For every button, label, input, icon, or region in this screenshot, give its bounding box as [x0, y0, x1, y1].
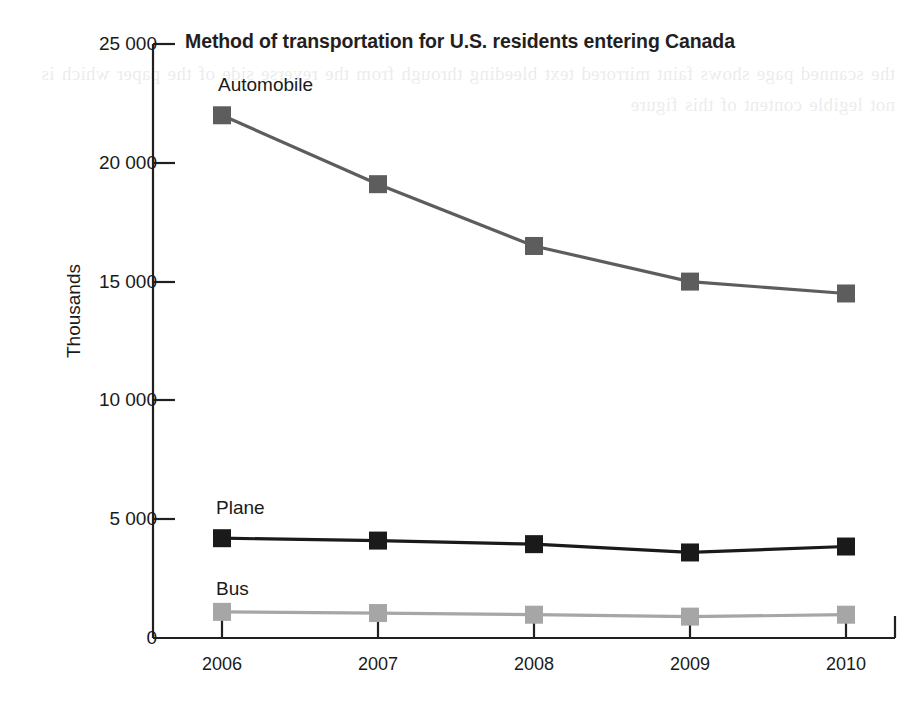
data-point-marker: [213, 106, 231, 124]
series-label-plane: Plane: [216, 497, 265, 519]
chart-title: Method of transportation for U.S. reside…: [185, 30, 885, 53]
y-tick-label-20000: 20 000: [37, 152, 157, 174]
line-chart-figure: Method of transportation for U.S. reside…: [0, 0, 923, 714]
data-point-marker: [681, 273, 699, 291]
y-tick-label-25000: 25 000: [37, 33, 157, 55]
series-label-bus: Bus: [216, 578, 249, 600]
data-point-marker: [837, 606, 855, 624]
data-point-marker: [369, 604, 387, 622]
series-bus: [213, 603, 855, 626]
data-point-marker: [369, 532, 387, 550]
x-tick-label-2009: 2009: [630, 654, 750, 675]
data-point-marker: [213, 603, 231, 621]
series-plane: [213, 529, 855, 561]
x-tick-label-2006: 2006: [162, 654, 282, 675]
y-tick-label-5000: 5 000: [37, 508, 157, 530]
series-line-automobile: [222, 115, 846, 293]
y-axis-title: Thousands: [63, 231, 85, 391]
data-point-marker: [213, 529, 231, 547]
x-tick-label-2008: 2008: [474, 654, 594, 675]
y-tick-label-10000: 10 000: [37, 389, 157, 411]
y-tick-label-15000: 15 000: [37, 271, 157, 293]
data-point-marker: [837, 284, 855, 302]
data-point-marker: [837, 538, 855, 556]
data-point-marker: [681, 608, 699, 626]
data-point-marker: [369, 175, 387, 193]
x-tick-label-2010: 2010: [786, 654, 906, 675]
series-label-automobile: Automobile: [218, 74, 313, 96]
data-point-marker: [525, 237, 543, 255]
y-tick-label-0: 0: [37, 627, 157, 649]
series-automobile: [213, 106, 855, 302]
y-axis-ticks: [153, 163, 175, 519]
data-series-layer: [213, 106, 855, 625]
plot-area: [0, 0, 923, 714]
data-point-marker: [681, 543, 699, 561]
x-tick-label-2007: 2007: [318, 654, 438, 675]
data-point-marker: [525, 535, 543, 553]
data-point-marker: [525, 606, 543, 624]
